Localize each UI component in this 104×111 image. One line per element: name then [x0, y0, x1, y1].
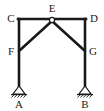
frame-members	[18, 19, 86, 86]
support-b	[77, 86, 93, 98]
node-label-f: F	[8, 45, 14, 57]
support-triangle-a	[13, 86, 25, 94]
support-a	[11, 86, 27, 98]
node-label-d: D	[90, 12, 98, 24]
support-triangle-b	[79, 86, 91, 94]
member-eg	[52, 21, 85, 51]
frame-diagram: C E D F G A B	[0, 0, 104, 111]
member-fe	[19, 21, 52, 51]
frame-diagram-canvas: C E D F G A B	[0, 0, 104, 111]
node-label-c: C	[7, 12, 14, 24]
node-label-a: A	[15, 98, 23, 110]
pin-joint-e	[49, 17, 54, 22]
node-label-b: B	[81, 98, 88, 110]
node-label-g: G	[89, 45, 97, 57]
node-label-e: E	[49, 2, 56, 14]
